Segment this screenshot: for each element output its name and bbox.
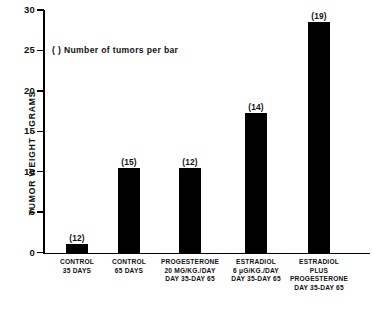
y-tick-label: 15 bbox=[7, 125, 35, 136]
y-tick-mark bbox=[37, 90, 44, 91]
bar-category-label: PROGESTERONE 20 MG/KG./DAY DAY 35-DAY 65 bbox=[157, 258, 223, 284]
x-axis-line bbox=[43, 253, 370, 255]
bar-category-label: ESTRADIOL 6 μG/KG./DAY DAY 35-DAY 65 bbox=[223, 258, 289, 284]
y-tick-label: 30 bbox=[7, 4, 35, 15]
y-tick-mark bbox=[37, 9, 44, 10]
bar bbox=[245, 113, 267, 253]
bar-count-label: (19) bbox=[299, 11, 339, 21]
bar bbox=[66, 244, 88, 252]
y-tick-mark bbox=[37, 171, 44, 172]
y-tick-label: 20 bbox=[7, 85, 35, 96]
y-tick-mark bbox=[37, 252, 44, 253]
cut-off-caption bbox=[0, 306, 372, 313]
y-tick-label: 10 bbox=[7, 166, 35, 177]
y-tick-label: 5 bbox=[7, 206, 35, 217]
bar-count-label: (15) bbox=[109, 157, 149, 167]
y-tick-mark bbox=[37, 50, 44, 51]
bar-count-label: (14) bbox=[236, 102, 276, 112]
bar-count-label: (12) bbox=[57, 233, 97, 243]
bar-count-label: (12) bbox=[170, 157, 210, 167]
bar bbox=[179, 168, 201, 252]
bar-chart: TUMOR WEIGHT : GRAMS 051015202530 ( ) Nu… bbox=[0, 0, 372, 313]
y-axis-line bbox=[43, 10, 45, 254]
bar bbox=[118, 168, 140, 253]
y-tick-mark bbox=[37, 131, 44, 132]
legend-note: ( ) Number of tumors per bar bbox=[52, 45, 178, 55]
bar-category-label: CONTROL 65 DAYS bbox=[96, 258, 162, 275]
y-tick-mark bbox=[37, 211, 44, 212]
y-tick-label: 0 bbox=[7, 247, 35, 258]
bar bbox=[308, 22, 330, 252]
bar-category-label: ESTRADIOL PLUS PROGESTERONE DAY 35-DAY 6… bbox=[286, 258, 352, 292]
y-tick-label: 25 bbox=[7, 44, 35, 55]
